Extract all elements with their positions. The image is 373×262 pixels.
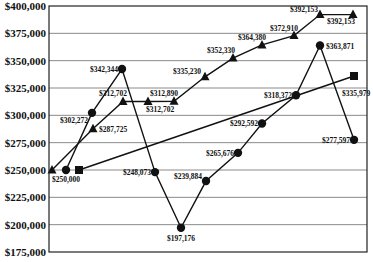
circle-marker bbox=[151, 168, 159, 176]
data-label: $364,380 bbox=[238, 33, 266, 42]
data-label: $342,344 bbox=[90, 65, 118, 74]
circle-marker bbox=[62, 166, 70, 174]
y-tick-label: $300,000 bbox=[5, 109, 47, 121]
y-tick-label: $275,000 bbox=[5, 137, 47, 149]
data-label: $277,597 bbox=[322, 136, 350, 145]
data-label: $292,592 bbox=[230, 119, 258, 128]
data-label: $363,871 bbox=[326, 42, 354, 51]
data-label: $372,910 bbox=[270, 24, 298, 33]
y-tick-label: $175,000 bbox=[5, 246, 47, 258]
square-marker bbox=[75, 166, 83, 174]
data-label: $312,890 bbox=[150, 89, 178, 98]
data-label: $250,000 bbox=[52, 175, 80, 184]
series-layer bbox=[48, 10, 359, 232]
y-tick-label: $400,000 bbox=[5, 0, 47, 12]
circle-marker bbox=[350, 136, 358, 144]
y-tick-label: $250,000 bbox=[5, 164, 47, 176]
data-label: $302,272 bbox=[60, 116, 88, 125]
y-tick-label: $200,000 bbox=[5, 219, 47, 231]
circle-marker bbox=[316, 41, 324, 49]
data-label: $352,330 bbox=[207, 46, 235, 55]
gridlines bbox=[49, 33, 367, 224]
data-label: $312,702 bbox=[99, 89, 127, 98]
data-labels: $287,725$312,702$312,702$312,890$335,230… bbox=[52, 5, 370, 243]
data-label: $318,372 bbox=[264, 91, 292, 100]
line-chart: $400,000$375,000$350,000$325,000$300,000… bbox=[0, 0, 373, 262]
y-tick-label: $350,000 bbox=[5, 55, 47, 67]
circle-marker bbox=[88, 109, 96, 117]
y-axis: $400,000$375,000$350,000$325,000$300,000… bbox=[5, 0, 47, 258]
data-label: $239,884 bbox=[174, 172, 202, 181]
data-label: $265,676 bbox=[206, 149, 234, 158]
circle-marker bbox=[118, 65, 126, 73]
circle-marker bbox=[177, 224, 185, 232]
data-label: $197,176 bbox=[167, 234, 195, 243]
triangle-marker bbox=[201, 72, 210, 81]
data-label: $392,153 bbox=[327, 17, 355, 26]
y-tick-label: $325,000 bbox=[5, 82, 47, 94]
circle-marker bbox=[202, 177, 210, 185]
data-label: $312,702 bbox=[146, 105, 174, 114]
y-tick-label: $375,000 bbox=[5, 27, 47, 39]
y-tick-label: $225,000 bbox=[5, 191, 47, 203]
square-marker bbox=[350, 72, 358, 80]
circle-marker bbox=[234, 149, 242, 157]
data-label: $335,230 bbox=[173, 67, 201, 76]
data-label: $335,979 bbox=[342, 89, 370, 98]
data-label: $287,725 bbox=[99, 125, 127, 134]
data-label: $248,073 bbox=[123, 168, 151, 177]
circle-marker bbox=[258, 119, 266, 127]
